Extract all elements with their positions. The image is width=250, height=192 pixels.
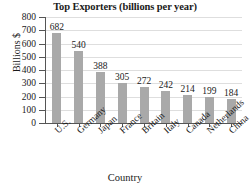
bar [52,33,61,123]
bar [118,83,127,123]
gridline [46,17,242,18]
y-axis-tick-label: 400 [0,66,36,76]
y-axis-tick-label: 500 [0,53,36,63]
y-axis-tick [39,57,45,58]
y-axis-tick-label: 700 [0,26,36,36]
y-axis-tick-label: 600 [0,40,36,50]
y-axis-tick [39,70,45,71]
y-axis-tick [39,83,45,84]
bar-chart: Top Exporters (billions per year) Billio… [0,0,250,192]
bar-value-label: 388 [86,62,114,72]
plot-area [46,17,242,123]
y-axis-tick-label: 800 [0,13,36,23]
y-axis-tick-label: 200 [0,93,36,103]
y-axis-tick-label: 300 [0,79,36,89]
chart-title: Top Exporters (billions per year) [0,1,250,12]
x-axis-label: Country [0,172,250,183]
bar-value-label: 540 [65,41,93,51]
y-axis-tick [39,110,45,111]
y-axis-tick [39,123,45,124]
bar-value-label: 682 [43,23,71,33]
y-axis-tick [39,97,45,98]
bar-value-label: 184 [217,89,245,99]
gridline [46,30,242,31]
y-axis-tick-label: 0 [0,119,36,129]
bar [183,95,192,123]
y-axis-tick-label: 100 [0,106,36,116]
y-axis-tick [39,44,45,45]
bar [74,51,83,123]
y-axis-tick [39,17,45,18]
